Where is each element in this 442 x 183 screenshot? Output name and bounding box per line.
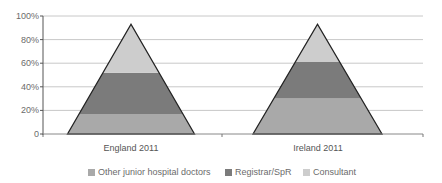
legend-item-other-junior: Other junior hospital doctors xyxy=(88,164,211,180)
pyramid-1 xyxy=(253,24,382,134)
pyramid-band xyxy=(253,99,382,134)
y-tick-label: 60% xyxy=(21,58,39,68)
pyramid-band xyxy=(103,24,159,72)
legend: Other junior hospital doctors Registrar/… xyxy=(0,164,442,180)
legend-label-other-junior: Other junior hospital doctors xyxy=(98,167,211,177)
pyramid-band xyxy=(68,114,195,134)
legend-item-consultant: Consultant xyxy=(303,164,356,180)
legend-item-registrar: Registrar/SpR xyxy=(225,164,292,180)
x-axis-labels: England 2011 Ireland 2011 xyxy=(104,143,343,153)
legend-swatch-registrar xyxy=(225,169,232,176)
pyramids xyxy=(68,24,383,134)
y-tick-label: 100% xyxy=(16,11,39,21)
legend-swatch-other-junior xyxy=(88,169,95,176)
category-label-england: England 2011 xyxy=(104,143,159,153)
pyramid-band xyxy=(295,24,339,62)
y-tick-label: 80% xyxy=(21,35,39,45)
legend-label-registrar: Registrar/SpR xyxy=(235,167,292,177)
y-tick-label: 40% xyxy=(21,82,39,92)
y-tick-label: 20% xyxy=(21,105,39,115)
pyramid-band xyxy=(274,62,361,99)
pyramid-chart: 100%80%60%40%20%0 England 2011 Ireland 2… xyxy=(0,0,442,160)
legend-label-consultant: Consultant xyxy=(313,167,356,177)
legend-swatch-consultant xyxy=(303,169,310,176)
y-tick-label: 0 xyxy=(34,129,39,139)
y-axis-ticks: 100%80%60%40%20%0 xyxy=(16,11,43,139)
category-label-ireland: Ireland 2011 xyxy=(293,143,342,153)
pyramid-band xyxy=(79,73,183,114)
pyramid-0 xyxy=(68,24,195,134)
